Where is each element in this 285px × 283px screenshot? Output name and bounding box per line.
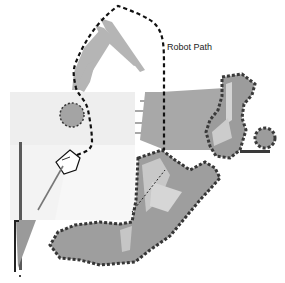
left-wall-dark <box>14 220 16 272</box>
obstacle-circle-left <box>60 103 84 127</box>
connector-wall <box>240 150 270 153</box>
robot-path-label: Robot Path <box>167 42 212 52</box>
wall-corner <box>14 220 19 222</box>
upper-sensor-streaks <box>72 18 145 92</box>
map-marker <box>19 275 21 277</box>
sonar-cone-bottom-left <box>16 220 36 268</box>
obstacle-small-right <box>255 128 275 148</box>
obstacle-cluster-right <box>206 74 255 158</box>
occupancy-grid-map <box>0 0 285 283</box>
